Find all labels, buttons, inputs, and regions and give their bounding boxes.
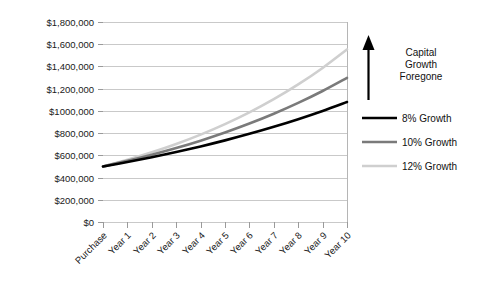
x-axis-tick-label: Year 7 — [253, 230, 280, 257]
y-axis-tick-label: $1,400,000 — [46, 61, 94, 72]
annotation-line-1: Capital — [405, 47, 436, 58]
x-axis-tick-label: Year 10 — [322, 230, 353, 261]
y-axis-tick-label: $0 — [83, 217, 94, 228]
y-axis-tick-label: $1,800,000 — [46, 17, 94, 28]
y-axis-tick-label: $200,000 — [54, 195, 94, 206]
up-arrow-icon — [363, 35, 375, 100]
y-axis-tick-label: $1,200,000 — [46, 84, 94, 95]
x-axis-tick-label: Year 5 — [204, 230, 231, 257]
capital-growth-foregone-annotation: Capital Growth Foregone — [363, 35, 443, 100]
growth-line-chart: $0$200,000$400,000$600,000$800,000$1000,… — [0, 0, 477, 288]
x-axis-tick-label: Purchase — [73, 230, 109, 266]
y-axis-tick-label: $800,000 — [54, 128, 94, 139]
x-axis-tick-label: Year 4 — [180, 230, 207, 257]
annotation-line-3: Foregone — [400, 71, 443, 82]
legend-label: 10% Growth — [402, 137, 457, 148]
y-axis-ticks — [98, 23, 103, 223]
x-axis-tick-label: Year 2 — [131, 230, 158, 257]
x-axis-tick-label: Year 8 — [277, 230, 304, 257]
x-axis-tick-label: Year 6 — [228, 230, 255, 257]
chart-container: $0$200,000$400,000$600,000$800,000$1000,… — [0, 0, 477, 288]
series-line — [103, 78, 347, 167]
x-axis-labels: PurchaseYear 1Year 2Year 3Year 4Year 5Ye… — [73, 230, 353, 266]
y-axis-tick-label: $400,000 — [54, 173, 94, 184]
y-axis-labels: $0$200,000$400,000$600,000$800,000$1000,… — [46, 17, 94, 228]
x-axis-tick-label: Year 3 — [155, 230, 182, 257]
annotation-line-2: Growth — [405, 59, 437, 70]
series-line — [103, 49, 347, 166]
legend-label: 8% Growth — [402, 113, 451, 124]
series-lines — [103, 49, 347, 166]
x-axis-tick-label: Year 1 — [106, 230, 133, 257]
legend-label: 12% Growth — [402, 161, 457, 172]
y-axis-tick-label: $1000,000 — [49, 106, 94, 117]
y-axis-tick-label: $600,000 — [54, 150, 94, 161]
chart-legend: 8% Growth10% Growth12% Growth — [362, 113, 457, 172]
y-axis-tick-label: $1,600,000 — [46, 39, 94, 50]
